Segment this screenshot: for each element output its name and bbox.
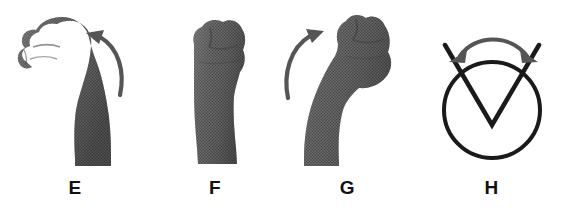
hand-shape-f (193, 20, 245, 164)
goniometer-circle (444, 62, 540, 158)
panel-label-h: H (415, 176, 568, 200)
panel-e: E (0, 0, 150, 214)
panel-g: G (280, 0, 415, 214)
panel-label-e: E (0, 176, 150, 200)
panel-e-illustration (0, 0, 150, 178)
panel-label-g: G (280, 176, 415, 200)
panel-g-illustration (280, 0, 415, 178)
panel-h: H (415, 0, 568, 214)
panel-label-f: F (150, 176, 280, 200)
panel-f: F (150, 0, 280, 214)
wrist-range-of-motion-figure: E (0, 0, 568, 214)
panel-h-illustration (415, 0, 568, 178)
panel-f-illustration (150, 0, 280, 178)
range-of-motion-arc-icon (449, 40, 538, 64)
